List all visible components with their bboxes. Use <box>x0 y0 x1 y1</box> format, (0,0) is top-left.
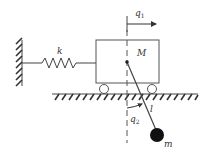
wall <box>16 38 22 86</box>
wheel-right <box>148 85 157 94</box>
q2-label: q2 <box>130 114 140 125</box>
pendulum-length-label: l <box>150 104 153 114</box>
spring-label: k <box>57 46 62 56</box>
pendulum-mass-label: m <box>164 139 173 149</box>
cart-pendulum-diagram: k M <box>0 0 210 157</box>
q1-label: q1 <box>135 8 145 19</box>
cart-mass-label: M <box>136 48 147 58</box>
ground <box>52 94 198 100</box>
pivot-point <box>125 60 129 64</box>
wheel-left <box>100 85 109 94</box>
q2-angle-arc <box>127 104 142 108</box>
pendulum-bob <box>150 128 164 142</box>
spring <box>22 58 96 68</box>
